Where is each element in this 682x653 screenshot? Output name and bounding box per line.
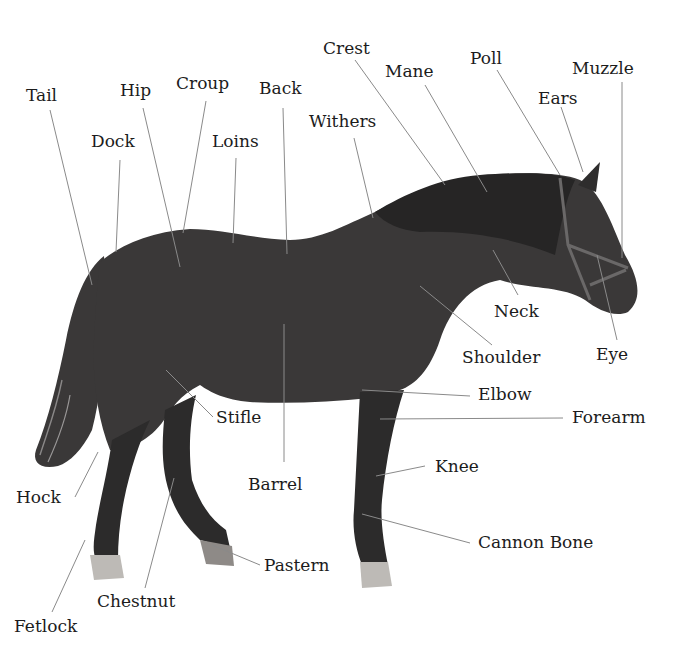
horse-front-hoof xyxy=(360,562,392,588)
label-shoulder: Shoulder xyxy=(462,349,540,366)
label-neck: Neck xyxy=(494,303,539,320)
label-cannon-bone: Cannon Bone xyxy=(478,534,593,551)
label-forearm: Forearm xyxy=(572,409,646,426)
label-knee: Knee xyxy=(435,458,479,475)
label-dock: Dock xyxy=(91,133,135,150)
label-ears: Ears xyxy=(538,90,577,107)
label-croup: Croup xyxy=(176,75,229,92)
label-muzzle: Muzzle xyxy=(572,60,634,77)
label-crest: Crest xyxy=(323,40,370,57)
label-eye: Eye xyxy=(596,346,628,363)
horse-illustration xyxy=(0,0,682,653)
label-hip: Hip xyxy=(120,82,151,99)
label-stifle: Stifle xyxy=(216,409,261,426)
label-loins: Loins xyxy=(212,133,259,150)
label-mane: Mane xyxy=(385,63,434,80)
label-back: Back xyxy=(259,80,301,97)
label-elbow: Elbow xyxy=(478,386,532,403)
horse-anatomy-diagram: Crest Poll Mane Muzzle Tail Hip Croup Ba… xyxy=(0,0,682,653)
label-tail: Tail xyxy=(26,87,57,104)
label-withers: Withers xyxy=(309,113,376,130)
label-fetlock: Fetlock xyxy=(14,618,77,635)
label-barrel: Barrel xyxy=(248,476,302,493)
label-pastern: Pastern xyxy=(264,557,330,574)
label-poll: Poll xyxy=(470,50,502,67)
label-chestnut: Chestnut xyxy=(97,593,175,610)
horse-front-leg-near xyxy=(353,390,404,565)
horse-hind-hoof-near xyxy=(90,555,124,580)
label-hock: Hock xyxy=(16,489,61,506)
